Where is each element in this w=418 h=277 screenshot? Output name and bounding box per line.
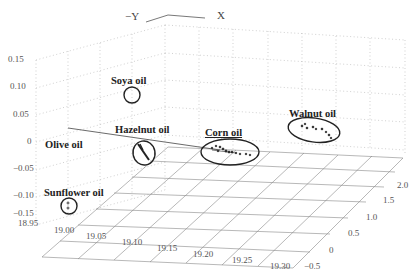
x-tick: 19.20 <box>193 250 213 259</box>
z-tick: 0.05 <box>13 110 29 119</box>
y-tick: −0.5 <box>304 262 320 271</box>
y-tick: 1.0 <box>366 213 377 222</box>
x-tick: 19.05 <box>86 232 106 241</box>
axis-indicator-line <box>146 15 205 22</box>
x-tick: 18.95 <box>18 219 38 228</box>
label-walnut-oil: Walnut oil <box>289 109 336 120</box>
y-tick: 2.0 <box>397 181 408 190</box>
label-soya-oil: Soya oil <box>111 76 146 87</box>
sunflower-cluster <box>61 198 77 214</box>
z-tick: 0.15 <box>8 55 24 64</box>
label-corn-oil: Corn oil <box>205 128 242 139</box>
label-hazelnut-oil: Hazelnut oil <box>115 125 170 136</box>
y-tick: 0.5 <box>348 229 359 238</box>
label-olive-oil: Olive oil <box>45 140 83 151</box>
z-tick: −0.15 <box>13 209 34 218</box>
x-tick: 19.00 <box>54 226 74 235</box>
y-tick: 0 <box>329 246 334 255</box>
z-tick: −0.05 <box>13 164 34 173</box>
z-tick: 0 <box>27 137 32 146</box>
x-tick: 19.10 <box>122 238 142 247</box>
z-tick: −0.10 <box>13 191 34 200</box>
x-tick: 19.15 <box>157 244 177 253</box>
x-tick: 19.30 <box>270 262 290 271</box>
axis-label-x: X <box>217 10 225 21</box>
y-tick: 1.5 <box>383 196 394 205</box>
x-tick: 19.25 <box>232 256 252 265</box>
axis-label-y: −Y <box>125 11 139 22</box>
label-sunflower-oil: Sunflower oil <box>44 188 104 199</box>
z-tick: 0.10 <box>10 82 26 91</box>
